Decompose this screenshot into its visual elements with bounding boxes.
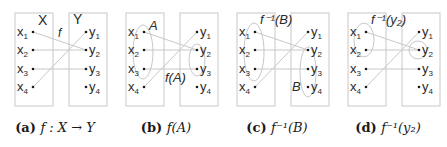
element-dot bbox=[32, 31, 35, 34]
domain-element-x4: x4 bbox=[17, 79, 29, 96]
element-dot bbox=[196, 68, 199, 71]
element-dot bbox=[418, 86, 421, 89]
codomain-element-y2: y2 bbox=[422, 42, 434, 59]
codomain-element-y4: y4 bbox=[200, 79, 212, 96]
codomain-set-box bbox=[180, 13, 218, 106]
codomain-element-y3: y3 bbox=[422, 61, 434, 78]
element-dot bbox=[418, 68, 421, 71]
domain-element-x3: x3 bbox=[128, 61, 140, 78]
panel-c: x1x2x3x4y1y2y3y4f⁻¹(B)B(c) f⁻¹(B) bbox=[237, 12, 329, 135]
domain-element-x3: x3 bbox=[350, 61, 362, 78]
figure-set-mappings: x1x2x3x4y1y2y3y4XfY(a) f : X → Yx1x2x3x4… bbox=[0, 0, 447, 147]
domain-element-x2: x2 bbox=[128, 42, 140, 59]
element-dot bbox=[32, 86, 35, 89]
function-label: f bbox=[58, 26, 63, 40]
domain-element-x1: x1 bbox=[128, 24, 140, 41]
element-dot bbox=[143, 86, 146, 89]
element-dot bbox=[143, 49, 146, 52]
panel-d: x1x2x3x4y1y2y3y4f⁻¹(y₂)(d) f⁻¹(y₂) bbox=[348, 12, 440, 135]
element-dot bbox=[143, 31, 146, 34]
codomain-element-y2: y2 bbox=[89, 42, 101, 59]
codomain-element-y3: y3 bbox=[311, 61, 323, 78]
element-dot bbox=[365, 86, 368, 89]
element-dot bbox=[196, 31, 199, 34]
panel-caption: (b) f(A) bbox=[141, 120, 191, 135]
panel-caption: (d) f⁻¹(y₂) bbox=[355, 120, 421, 135]
domain-element-x1: x1 bbox=[17, 24, 29, 41]
element-dot bbox=[196, 49, 199, 52]
subset-label: B bbox=[292, 79, 301, 94]
panel-a: x1x2x3x4y1y2y3y4XfY(a) f : X → Y bbox=[15, 11, 107, 135]
domain-element-x2: x2 bbox=[17, 42, 29, 59]
element-dot bbox=[32, 49, 35, 52]
image-label: f(A) bbox=[165, 70, 186, 85]
codomain-element-y2: y2 bbox=[200, 42, 212, 59]
preimage-label: f⁻¹(B) bbox=[260, 12, 292, 27]
element-dot bbox=[85, 49, 88, 52]
panel-caption: (c) f⁻¹(B) bbox=[246, 120, 307, 135]
codomain-set-box bbox=[402, 13, 440, 106]
element-dot bbox=[307, 68, 310, 71]
domain-element-x3: x3 bbox=[17, 61, 29, 78]
codomain-element-y2: y2 bbox=[311, 42, 323, 59]
codomain-element-y4: y4 bbox=[422, 79, 434, 96]
element-dot bbox=[365, 68, 368, 71]
element-dot bbox=[365, 31, 368, 34]
domain-set-label: X bbox=[38, 12, 48, 28]
element-dot bbox=[365, 49, 368, 52]
domain-element-x4: x4 bbox=[128, 79, 140, 96]
panel-caption: (a) f : X → Y bbox=[15, 120, 96, 135]
codomain-element-y3: y3 bbox=[200, 61, 212, 78]
element-dot bbox=[307, 31, 310, 34]
codomain-element-y1: y1 bbox=[200, 24, 212, 41]
codomain-element-y3: y3 bbox=[89, 61, 101, 78]
element-dot bbox=[307, 49, 310, 52]
subset-label: A bbox=[148, 18, 158, 33]
element-dot bbox=[85, 31, 88, 34]
codomain-element-y4: y4 bbox=[311, 79, 323, 96]
element-dot bbox=[32, 68, 35, 71]
element-dot bbox=[254, 49, 257, 52]
element-dot bbox=[254, 31, 257, 34]
panel-b: x1x2x3x4y1y2y3y4Af(A)(b) f(A) bbox=[126, 13, 218, 135]
mapping-line-x4-y1 bbox=[33, 32, 86, 87]
codomain-set-label: Y bbox=[73, 11, 83, 27]
codomain-element-y4: y4 bbox=[89, 79, 101, 96]
preimage-label: f⁻¹(y₂) bbox=[371, 12, 406, 27]
element-dot bbox=[143, 68, 146, 71]
element-dot bbox=[85, 68, 88, 71]
element-dot bbox=[418, 49, 421, 52]
element-dot bbox=[254, 86, 257, 89]
codomain-element-y1: y1 bbox=[89, 24, 101, 41]
domain-element-x4: x4 bbox=[239, 79, 251, 96]
domain-element-x3: x3 bbox=[239, 61, 251, 78]
element-dot bbox=[418, 31, 421, 34]
element-dot bbox=[307, 86, 310, 89]
element-dot bbox=[85, 86, 88, 89]
element-dot bbox=[196, 86, 199, 89]
codomain-element-y1: y1 bbox=[422, 24, 434, 41]
domain-element-x2: x2 bbox=[239, 42, 251, 59]
domain-element-x4: x4 bbox=[350, 79, 362, 96]
codomain-element-y1: y1 bbox=[311, 24, 323, 41]
domain-element-x1: x1 bbox=[350, 24, 362, 41]
element-dot bbox=[254, 68, 257, 71]
domain-element-x2: x2 bbox=[350, 42, 362, 59]
